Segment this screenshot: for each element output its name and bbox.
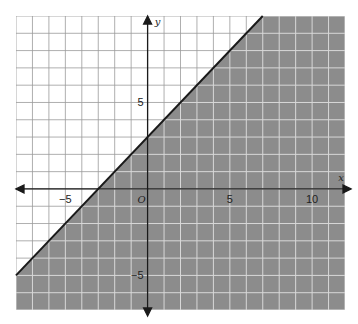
y-tick-label: −5 — [131, 269, 144, 281]
x-axis-right-arrow-icon — [343, 185, 351, 193]
x-tick-label: 5 — [227, 193, 233, 205]
y-tick-label: 5 — [137, 96, 143, 108]
x-tick-label: 10 — [306, 193, 318, 205]
y-axis-label: y — [154, 16, 161, 27]
origin-label: O — [137, 194, 145, 205]
y-axis-down-arrow-icon — [144, 308, 152, 316]
x-axis-label: x — [338, 172, 344, 183]
y-axis-up-arrow-icon — [144, 16, 152, 24]
x-axis-left-arrow-icon — [16, 185, 24, 193]
x-tick-label: −5 — [59, 193, 72, 205]
inequality-graph: −55105−5Oxy — [0, 0, 358, 324]
